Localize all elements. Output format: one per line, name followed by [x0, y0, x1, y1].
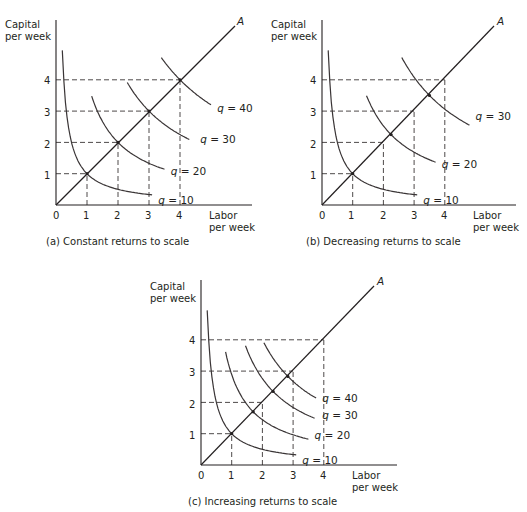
returns-to-scale-figure: A Capital per week Labor per week 0 1 2 … — [0, 0, 527, 512]
panel-b-ray-a — [322, 26, 494, 205]
panel-a-xlabel-line1: Labor — [209, 210, 238, 221]
panel-a-constant-returns: A Capital per week Labor per week 0 1 2 … — [5, 15, 255, 247]
isoquant-label-q20: q = 20 — [171, 165, 207, 177]
isoquant-q30 — [402, 58, 470, 126]
intersection-point-1 — [85, 172, 88, 175]
panel-b-ytick-4: 4 — [310, 75, 316, 86]
isoquant-label-q10: q = 10 — [158, 194, 194, 206]
panel-a-xtick-1: 1 — [83, 210, 89, 221]
panel-c-xtick-0: 0 — [198, 470, 204, 481]
panel-b-ytick-1: 1 — [310, 170, 316, 181]
panel-a-caption: (a) Constant returns to scale — [46, 236, 189, 247]
intersection-point-1 — [230, 432, 233, 435]
panel-b-xlabel-line1: Labor — [473, 210, 502, 221]
intersection-point-2 — [116, 141, 119, 144]
panel-b-ylabel-line1: Capital — [271, 19, 306, 30]
panel-b-ylabel-line2: per week — [271, 31, 317, 42]
panel-a-ylabel-line2: per week — [5, 31, 51, 42]
isoquant-label-q30: q = 30 — [322, 409, 358, 421]
panel-c-ylabel-line1: Capital — [150, 281, 185, 292]
isoquant-q10 — [207, 310, 296, 455]
panel-a-ytick-4: 4 — [44, 75, 50, 86]
panel-a-xtick-4: 4 — [176, 210, 182, 221]
panel-c-xtick-3: 3 — [290, 470, 296, 481]
panel-b-decreasing-returns: A Capital per week Labor per week 0 1 2 … — [271, 15, 519, 247]
isoquant-q10 — [328, 50, 417, 195]
isoquant-label-q30: q = 30 — [476, 110, 512, 122]
panel-a-ytick-2: 2 — [44, 139, 50, 150]
panel-b-xtick-1: 1 — [348, 210, 354, 221]
intersection-point-3 — [428, 94, 431, 97]
isoquant-label-q30: q = 30 — [200, 133, 236, 145]
panel-c-ytick-4: 4 — [189, 335, 195, 346]
panel-b-ytick-3: 3 — [310, 107, 316, 118]
panel-c-ytick-3: 3 — [189, 367, 195, 378]
panel-c-xlabel-line2: per week — [352, 482, 398, 493]
panel-a-xtick-0: 0 — [53, 210, 59, 221]
intersection-point-2 — [252, 410, 255, 413]
isoquant-q20 — [367, 96, 436, 162]
panel-b-xtick-4: 4 — [441, 210, 447, 221]
panel-c-ytick-1: 1 — [189, 430, 195, 441]
isoquant-label-q10: q = 10 — [423, 194, 459, 206]
intersection-point-4 — [178, 78, 181, 81]
panel-c-ytick-2: 2 — [189, 399, 195, 410]
panel-a-ytick-1: 1 — [44, 170, 50, 181]
isoquant-label-q20: q = 20 — [442, 158, 478, 170]
panel-b-xtick-2: 2 — [380, 210, 386, 221]
panel-c-caption: (c) Increasing returns to scale — [188, 496, 337, 507]
panel-b-caption: (b) Decreasing returns to scale — [306, 236, 461, 247]
panel-a-xlabel-line2: per week — [209, 222, 255, 233]
panel-c-isoquants — [207, 310, 316, 455]
intersection-point-4 — [286, 375, 289, 378]
panel-b-xlabel-line2: per week — [473, 222, 519, 233]
panel-c-xtick-4: 4 — [320, 470, 326, 481]
panel-c-ray-label: A — [376, 275, 384, 287]
panel-b-ytick-2: 2 — [310, 139, 316, 150]
panel-c-xtick-1: 1 — [228, 470, 234, 481]
panel-c-xtick-2: 2 — [259, 470, 265, 481]
panel-c-xlabel-line1: Labor — [352, 470, 381, 481]
panel-c-ylabel-line2: per week — [150, 293, 196, 304]
isoquant-label-q40: q = 40 — [217, 102, 253, 114]
panel-a-ray-label: A — [236, 15, 244, 27]
panel-b-ray-label: A — [496, 15, 504, 27]
panel-b-xtick-0: 0 — [319, 210, 325, 221]
intersection-point-2 — [389, 133, 392, 136]
panel-a-ray-a — [56, 26, 235, 205]
panel-c-increasing-returns: A Capital per week Labor per week 0 1 2 … — [150, 275, 398, 507]
intersection-point-1 — [351, 172, 354, 175]
panel-b-isoquants — [328, 50, 469, 195]
panel-a-q-labels: q = 10q = 20q = 30q = 40 — [158, 102, 252, 206]
panel-a-ytick-3: 3 — [44, 107, 50, 118]
panel-a-xtick-3: 3 — [145, 210, 151, 221]
panel-b-xtick-3: 3 — [411, 210, 417, 221]
intersection-point-3 — [272, 390, 275, 393]
isoquant-label-q40: q = 40 — [322, 392, 358, 404]
isoquant-label-q10: q = 10 — [302, 454, 338, 466]
panel-a-ylabel-line1: Capital — [5, 19, 40, 30]
panel-a-xtick-2: 2 — [114, 210, 120, 221]
intersection-point-3 — [147, 110, 150, 113]
isoquant-q40 — [161, 58, 211, 105]
isoquant-label-q20: q = 20 — [315, 429, 351, 441]
panel-c-q-labels: q = 10q = 20q = 30q = 40 — [302, 392, 357, 467]
